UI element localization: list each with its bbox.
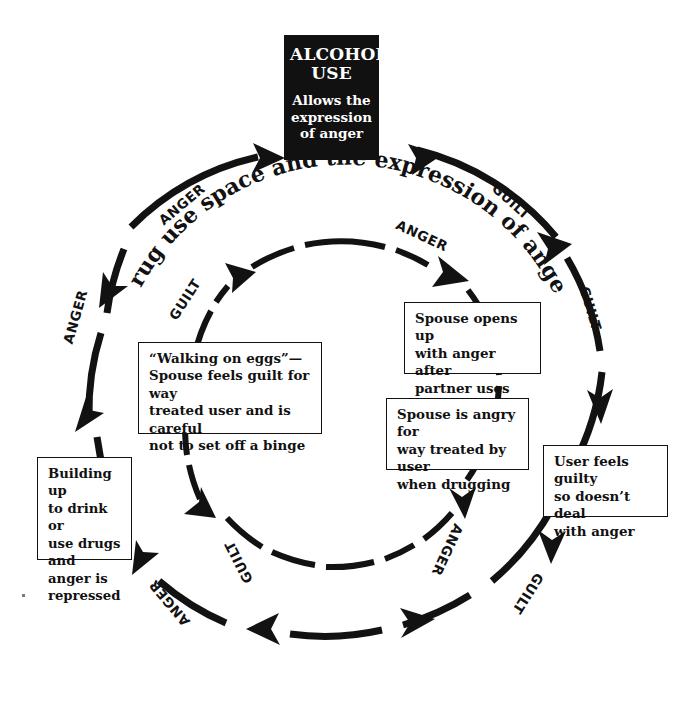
alcohol-use-focus-box: ALCOHOL USE Allows the expression of ang… xyxy=(284,35,379,160)
outer-label-guilt-lower-right: GUILT xyxy=(509,570,547,617)
inner-arc-top-a xyxy=(252,248,294,267)
inner-arc-bottom-a xyxy=(326,562,374,567)
inner-arc-top-c xyxy=(396,250,428,265)
inner-arc-top-b xyxy=(305,241,385,247)
focus-box-subtitle: Allows the expression of anger xyxy=(290,92,373,141)
outer-arc-left-middle xyxy=(89,333,101,417)
outer-arc-left-upper xyxy=(107,249,124,313)
outer-label-anger-left: ANGER xyxy=(60,288,91,346)
outer-label-guilt-right: GUILT xyxy=(576,284,605,333)
outer-arrowhead-bottom-left xyxy=(132,540,159,575)
note-spouse-opens-up: Spouse opens up with anger after partner… xyxy=(404,302,541,374)
inner-label-guilt-lower-left: GUILT xyxy=(221,538,256,586)
inner-label-anger-upper-right: ANGER xyxy=(394,217,451,255)
inner-arrowhead-top-right xyxy=(432,256,469,287)
page-speck xyxy=(22,594,25,597)
outer-arc-bottom xyxy=(290,630,382,636)
inner-arc-bottom-b xyxy=(272,552,315,565)
outer-arrowhead-bottom xyxy=(246,613,280,645)
anger-guilt-cycle-diagram: Drug use space and the expression of ang… xyxy=(0,0,690,721)
note-spouse-is-angry: Spouse is angry for way treated by user … xyxy=(386,398,529,470)
focus-box-title-line-2: USE xyxy=(290,64,373,83)
inner-arc-top-left-2 xyxy=(216,286,228,302)
inner-arc-bottom-right-2 xyxy=(385,545,414,559)
inner-label-guilt-upper-left: GUILT xyxy=(166,276,204,323)
note-walking-on-eggs: “Walking on eggs”— Spouse feels guilt fo… xyxy=(138,342,322,434)
note-user-feels-guilty: User feels guilty so doesn’t deal with a… xyxy=(543,445,668,517)
focus-box-title-line-1: ALCOHOL xyxy=(290,45,373,64)
inner-arc-left-lower xyxy=(189,465,200,499)
note-building-up: Building up to drink or use drugs and an… xyxy=(37,457,132,560)
